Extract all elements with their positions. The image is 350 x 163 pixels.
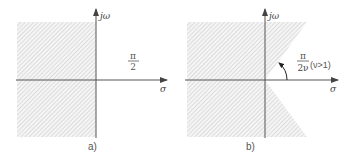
real-axis-label: σ [330, 84, 337, 94]
imaginary-axis-label: jω [98, 11, 111, 21]
panel-caption: a) [88, 141, 97, 152]
angle-label: π 2 [128, 51, 139, 72]
stability-region-diagram: jω σ π 2 a) jω σ π 2ν (ν>1) b) [0, 0, 350, 163]
panel-caption: b) [246, 141, 255, 152]
angle-numerator: π [300, 51, 306, 61]
angle-denominator: 2 [130, 62, 136, 72]
angle-label: π 2ν (ν>1) [297, 51, 331, 73]
panel-b: jω σ π 2ν (ν>1) b) [185, 9, 338, 152]
sector-angle-arc [279, 63, 287, 80]
real-axis-label: σ [160, 84, 167, 94]
angle-condition: (ν>1) [310, 60, 331, 70]
imaginary-axis-label: jω [267, 11, 280, 21]
panel-a: jω σ π 2 a) [16, 9, 167, 152]
angle-denominator: 2ν [297, 63, 308, 73]
angle-numerator: π [130, 51, 136, 61]
